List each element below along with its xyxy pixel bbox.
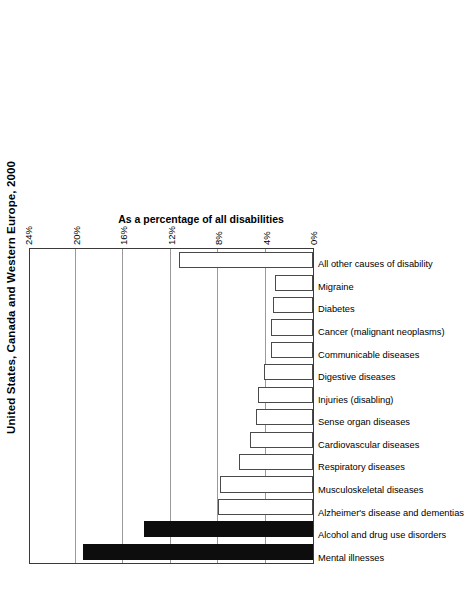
bar[interactable] bbox=[275, 275, 313, 291]
value-tick-label: 12% bbox=[167, 226, 177, 245]
category-label: Cardiovascular diseases bbox=[318, 440, 419, 450]
category-slot: Respiratory diseases bbox=[316, 451, 340, 474]
bar-series bbox=[30, 249, 313, 563]
category-label: Alzheimer's disease and dementias bbox=[318, 508, 464, 518]
bar-slot bbox=[30, 272, 313, 294]
bar[interactable] bbox=[220, 476, 313, 492]
category-slot: Mental illnesses bbox=[316, 541, 340, 564]
bar-slot bbox=[30, 518, 313, 540]
category-slot: Cancer (malignant neoplasms) bbox=[316, 316, 340, 339]
bar[interactable] bbox=[258, 387, 313, 403]
bar[interactable] bbox=[273, 297, 313, 313]
bar[interactable] bbox=[179, 252, 313, 268]
bar-slot bbox=[30, 428, 313, 450]
category-label: All other causes of disability bbox=[318, 259, 433, 269]
category-label: Diabetes bbox=[318, 304, 355, 314]
category-label: Mental illnesses bbox=[318, 553, 384, 563]
bar-slot bbox=[30, 339, 313, 361]
value-tick-label: 8% bbox=[214, 231, 224, 245]
category-slot: All other causes of disability bbox=[316, 248, 340, 271]
value-tick-label: 0% bbox=[309, 231, 319, 245]
category-slot: Diabetes bbox=[316, 293, 340, 316]
value-axis-title: As a percentage of all disabilities bbox=[58, 211, 343, 227]
bar[interactable] bbox=[271, 342, 313, 358]
bar[interactable] bbox=[250, 432, 313, 448]
category-slot: Cardiovascular diseases bbox=[316, 429, 340, 452]
value-tick-label: 4% bbox=[262, 231, 272, 245]
category-label: Sense organ diseases bbox=[318, 417, 410, 427]
bar-slot bbox=[30, 451, 313, 473]
category-slot: Migraine bbox=[316, 270, 340, 293]
category-label: Digestive diseases bbox=[318, 372, 396, 382]
bar-slot bbox=[30, 249, 313, 271]
category-label: Injuries (disabling) bbox=[318, 395, 393, 405]
bar[interactable] bbox=[264, 364, 313, 380]
category-axis: Mental illnessesAlcohol and drug use dis… bbox=[316, 248, 340, 564]
bar[interactable] bbox=[271, 320, 313, 336]
category-label: Alcohol and drug use disorders bbox=[318, 530, 446, 540]
bar-slot bbox=[30, 496, 313, 518]
value-tick-label: 20% bbox=[72, 226, 82, 245]
plot-area bbox=[29, 248, 314, 564]
bar-slot bbox=[30, 541, 313, 563]
category-label: Respiratory diseases bbox=[318, 462, 405, 472]
value-tick-label: 24% bbox=[24, 226, 34, 245]
bar-slot bbox=[30, 384, 313, 406]
bar[interactable] bbox=[239, 454, 313, 470]
category-label: Communicable diseases bbox=[318, 350, 419, 360]
category-slot: Alcohol and drug use disorders bbox=[316, 519, 340, 542]
category-slot: Alzheimer's disease and dementias bbox=[316, 496, 340, 519]
bar-slot bbox=[30, 406, 313, 428]
bar-slot bbox=[30, 316, 313, 338]
category-label: Cancer (malignant neoplasms) bbox=[318, 327, 445, 337]
value-tick-label: 16% bbox=[119, 226, 129, 245]
bar-slot bbox=[30, 294, 313, 316]
bar[interactable] bbox=[218, 499, 313, 515]
value-axis-title-wrap: As a percentage of all disabilities bbox=[29, 207, 314, 227]
category-slot: Sense organ diseases bbox=[316, 406, 340, 429]
category-slot: Musculoskeletal diseases bbox=[316, 474, 340, 497]
bar-slot bbox=[30, 473, 313, 495]
bar[interactable] bbox=[256, 409, 313, 425]
category-slot: Injuries (disabling) bbox=[316, 383, 340, 406]
page-title: United States, Canada and Western Europe… bbox=[0, 0, 18, 595]
category-label: Migraine bbox=[318, 282, 354, 292]
bar[interactable] bbox=[144, 521, 313, 537]
category-label: Musculoskeletal diseases bbox=[318, 485, 423, 495]
bar[interactable] bbox=[83, 544, 313, 560]
category-slot: Communicable diseases bbox=[316, 338, 340, 361]
bar-slot bbox=[30, 361, 313, 383]
category-slot: Digestive diseases bbox=[316, 361, 340, 384]
